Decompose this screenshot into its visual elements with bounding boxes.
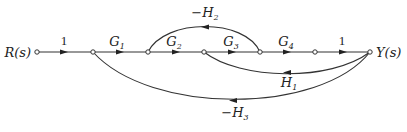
feedback-branch-h1 xyxy=(204,52,370,74)
arrow-icon xyxy=(60,50,68,55)
arrow-icon xyxy=(201,25,209,30)
arrow-icon xyxy=(339,50,347,55)
gain-label: −H3 xyxy=(221,105,248,122)
gain-label: G2 xyxy=(166,34,181,51)
feedback-branch-h2 xyxy=(148,27,260,53)
gain-label: H1 xyxy=(280,75,297,92)
gain-label: G4 xyxy=(278,34,293,51)
feedback-branch-h3 xyxy=(93,52,370,99)
signal-flow-graph: R(s) Y(s) 1 G1 G2 G3 G4 1 −H2 H1 −H3 xyxy=(0,0,407,132)
node-input xyxy=(35,50,39,54)
gain-label: G3 xyxy=(223,34,238,51)
node xyxy=(146,50,150,54)
gain-label: 1 xyxy=(339,33,346,48)
node xyxy=(258,50,262,54)
input-label: R(s) xyxy=(3,45,31,60)
node xyxy=(202,50,206,54)
gain-label: G1 xyxy=(109,34,124,51)
node xyxy=(91,50,95,54)
node-output xyxy=(368,50,372,54)
gain-label: 1 xyxy=(61,33,68,48)
gain-label: −H2 xyxy=(191,5,218,22)
node xyxy=(313,50,317,54)
output-label: Y(s) xyxy=(376,45,401,60)
